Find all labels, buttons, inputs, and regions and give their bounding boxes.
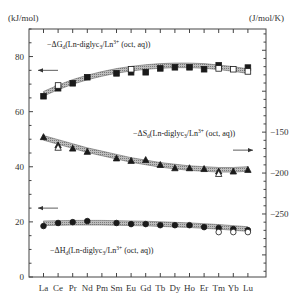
data-point-square-filled (70, 80, 76, 86)
x-tick-label: Nd (82, 283, 93, 293)
data-point-square-open (231, 66, 237, 72)
x-tick-label: Lu (243, 283, 253, 293)
data-point-circle-filled (143, 221, 149, 227)
data-point-square-filled (201, 66, 207, 72)
left-tick-label: 20 (15, 217, 25, 227)
data-point-square-filled (158, 66, 164, 72)
data-point-circle-filled (41, 223, 47, 229)
data-point-circle-filled (201, 224, 207, 230)
x-tick-label: Ho (184, 283, 195, 293)
x-tick-label: Yb (228, 283, 239, 293)
left-axis-unit: (kJ/mol) (8, 13, 39, 23)
data-point-circle-open (245, 229, 251, 235)
left-tick-label: 80 (15, 52, 25, 62)
series-label-dH: −ΔHd(Ln-diglyc3/Ln3+ (oct, aq)) (50, 245, 154, 256)
data-point-circle-open (231, 229, 237, 235)
data-point-square-open (128, 66, 134, 72)
x-tick-label: Ce (53, 283, 63, 293)
arrow-left-icon (38, 206, 43, 210)
x-tick-label: Dy (169, 283, 180, 293)
data-point-circle-filled (187, 222, 193, 228)
x-tick-label: Tm (212, 283, 225, 293)
annotations (38, 68, 253, 210)
arrow-right-icon (248, 148, 253, 152)
data-point-square-filled (187, 65, 193, 71)
data-point-square-filled (114, 71, 120, 77)
data-point-circle-filled (114, 220, 120, 226)
data-markers (40, 63, 251, 235)
x-tick-label: Sm (110, 283, 122, 293)
left-tick-label: 40 (15, 162, 25, 172)
data-point-circle-filled (158, 222, 164, 228)
x-tick-label: Pm (96, 283, 108, 293)
data-point-circle-filled (128, 221, 134, 227)
data-point-circle-filled (172, 222, 178, 228)
right-axis-unit: (J/mol/K) (249, 13, 284, 23)
x-tick-label: Gd (140, 283, 151, 293)
data-point-circle-filled (55, 220, 61, 226)
right-tick-label: −200 (270, 168, 289, 178)
left-axis: 020406080 (15, 29, 33, 282)
x-tick-label: Er (200, 283, 209, 293)
left-tick-label: 60 (15, 107, 25, 117)
data-point-square-open (216, 66, 222, 72)
data-point-square-open (55, 83, 61, 89)
data-point-circle-filled (70, 219, 76, 225)
x-tick-label: Tb (155, 283, 165, 293)
data-point-square-filled (41, 93, 47, 99)
chart: 020406080 −150−200−250 LaCePrNdPmSmEuGdT… (0, 0, 303, 302)
right-tick-label: −250 (270, 209, 289, 219)
x-tick-label: Eu (126, 283, 136, 293)
left-tick-label: 0 (20, 272, 25, 282)
data-point-square-open (245, 69, 251, 75)
arrow-left-icon (38, 68, 43, 72)
fit-band (44, 136, 248, 173)
x-tick-label: La (39, 283, 49, 293)
x-tick-label: Pr (69, 283, 77, 293)
series-label-dG: −ΔGd(Ln-diglyc3/Ln3+ (oct, aq)) (47, 39, 151, 50)
right-tick-label: −150 (270, 127, 289, 137)
data-point-circle-open (216, 229, 222, 235)
data-point-square-filled (143, 69, 149, 75)
data-point-square-filled (172, 65, 178, 71)
data-point-square-filled (85, 74, 91, 80)
data-point-circle-filled (85, 218, 91, 224)
series-label-dS: −ΔSd(Ln-diglyc3/Ln3+ (oct, aq)) (133, 128, 235, 139)
